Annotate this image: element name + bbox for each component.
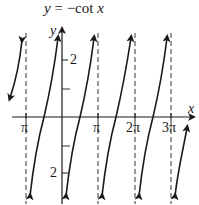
y-axis-label: y: [50, 24, 56, 38]
y-tick-top: 2: [70, 53, 77, 67]
x-tick-pi: π: [93, 121, 100, 135]
x-tick-2pi: 2π: [126, 121, 140, 135]
x-tick-3pi: 3π: [162, 121, 176, 135]
y-tick-bottom: 2: [50, 166, 57, 180]
x-tick-neg-pi: π: [21, 121, 28, 135]
plot-area: [0, 0, 199, 205]
x-axis-label: x: [188, 102, 194, 116]
